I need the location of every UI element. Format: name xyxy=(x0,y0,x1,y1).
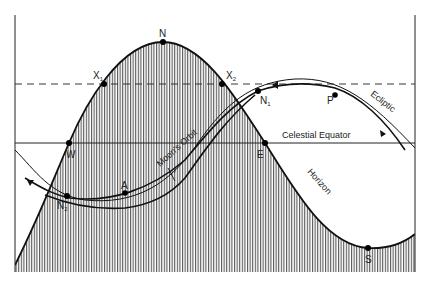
label-A: A xyxy=(121,180,128,191)
label-horizon: Horizon xyxy=(306,167,334,197)
label-N1: N1 xyxy=(260,95,271,107)
label-inclination: i xyxy=(174,166,176,175)
label-S: S xyxy=(365,254,372,265)
point-E xyxy=(262,140,268,146)
point-N2 xyxy=(64,193,70,199)
label-ecliptic: Ecliptic xyxy=(369,89,398,115)
label-X1: X1 xyxy=(93,70,104,82)
celestial-diagram: N X1 X2 W E S N1 N2 A P Celestial Equato… xyxy=(0,0,427,284)
label-E: E xyxy=(257,149,264,160)
label-celestial-equator: Celestial Equator xyxy=(282,130,351,140)
point-N1 xyxy=(255,88,261,94)
point-N xyxy=(160,39,166,45)
label-W: W xyxy=(66,149,76,160)
point-S xyxy=(365,245,371,251)
point-X2 xyxy=(219,81,225,87)
label-X2: X2 xyxy=(226,70,237,82)
point-W xyxy=(66,140,72,146)
label-P: P xyxy=(327,95,334,106)
label-N: N xyxy=(159,28,166,39)
arrow-right-icon xyxy=(380,130,386,137)
point-A xyxy=(122,190,128,196)
